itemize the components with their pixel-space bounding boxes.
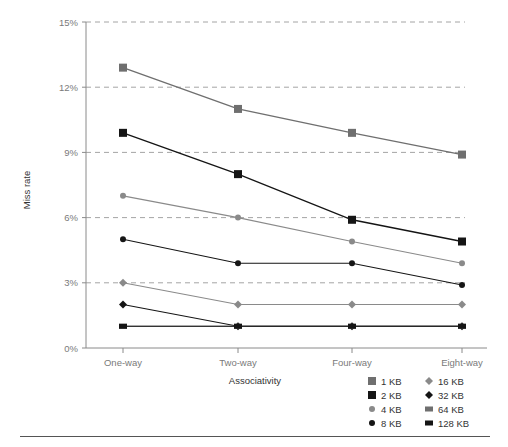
data-point bbox=[119, 279, 127, 287]
data-point bbox=[458, 324, 466, 329]
x-tick-label-eight-way: Eight-way bbox=[441, 357, 483, 368]
x-tick-label-one-way: One-way bbox=[104, 357, 142, 368]
data-point bbox=[458, 301, 466, 309]
series-line bbox=[123, 283, 462, 305]
legend-marker bbox=[368, 391, 376, 399]
data-point bbox=[119, 129, 127, 137]
y-tick-label-6%: 6% bbox=[64, 212, 78, 223]
data-point bbox=[348, 301, 356, 309]
legend-marker bbox=[425, 421, 433, 426]
series-line bbox=[123, 239, 462, 285]
data-point bbox=[349, 239, 355, 245]
series-2-kb bbox=[119, 129, 466, 246]
legend-label: 64 KB bbox=[438, 404, 464, 415]
axes bbox=[82, 22, 487, 353]
x-axis-title: Associativity bbox=[229, 375, 282, 386]
legend-item-16-kb[interactable]: 16 KB bbox=[425, 376, 464, 387]
legend-label: 32 KB bbox=[438, 390, 464, 401]
data-point bbox=[235, 260, 241, 266]
series-line bbox=[123, 68, 462, 155]
y-tick-label-15%: 15% bbox=[59, 17, 79, 28]
y-axis-title: Miss rate bbox=[21, 171, 32, 210]
axis-titles: AssociativityMiss rate bbox=[21, 171, 281, 386]
series-line bbox=[123, 196, 462, 263]
legend-item-64-kb[interactable]: 64 KB bbox=[425, 404, 464, 415]
data-point bbox=[120, 236, 126, 242]
miss-rate-line-chart: 0%3%6%9%12%15% One-wayTwo-wayFour-wayEig… bbox=[0, 0, 508, 447]
y-tick-label-12%: 12% bbox=[59, 82, 79, 93]
x-tick-label-two-way: Two-way bbox=[219, 357, 257, 368]
data-point bbox=[120, 193, 126, 199]
x-axis-tick-labels: One-wayTwo-wayFour-wayEight-way bbox=[104, 357, 483, 368]
data-point bbox=[119, 64, 127, 72]
data-point bbox=[234, 301, 242, 309]
chart-legend: 1 KB2 KB4 KB8 KB16 KB32 KB64 KB128 KB bbox=[368, 376, 469, 429]
series-16-kb bbox=[119, 279, 466, 309]
data-point bbox=[235, 215, 241, 221]
data-point bbox=[459, 282, 465, 288]
data-point bbox=[119, 301, 127, 309]
chart-figure: 0%3%6%9%12%15% One-wayTwo-wayFour-wayEig… bbox=[0, 0, 508, 447]
data-point bbox=[348, 129, 356, 137]
data-point bbox=[234, 324, 242, 329]
y-tick-label-3%: 3% bbox=[64, 277, 78, 288]
y-tick-label-9%: 9% bbox=[64, 147, 78, 158]
x-tick-label-four-way: Four-way bbox=[332, 357, 372, 368]
legend-label: 8 KB bbox=[381, 418, 402, 429]
legend-label: 2 KB bbox=[381, 390, 402, 401]
data-point bbox=[234, 105, 242, 113]
series-layer bbox=[119, 64, 466, 331]
legend-label: 128 KB bbox=[438, 418, 469, 429]
legend-item-1-kb[interactable]: 1 KB bbox=[368, 376, 402, 387]
data-point bbox=[458, 151, 466, 159]
legend-marker bbox=[425, 377, 433, 385]
series-1-kb bbox=[119, 64, 466, 159]
legend-marker bbox=[425, 391, 433, 399]
series-8-kb bbox=[120, 236, 465, 288]
data-point bbox=[234, 170, 242, 178]
data-point bbox=[458, 238, 466, 246]
legend-marker bbox=[369, 406, 375, 412]
data-point bbox=[348, 216, 356, 224]
legend-item-8-kb[interactable]: 8 KB bbox=[369, 418, 402, 429]
legend-marker bbox=[368, 377, 376, 385]
data-point bbox=[349, 260, 355, 266]
y-tick-label-0%: 0% bbox=[64, 343, 78, 354]
series-line bbox=[123, 305, 462, 327]
y-axis-tick-labels: 0%3%6%9%12%15% bbox=[59, 17, 79, 354]
footer-rule bbox=[20, 436, 490, 437]
legend-item-4-kb[interactable]: 4 KB bbox=[369, 404, 402, 415]
legend-label: 1 KB bbox=[381, 376, 402, 387]
legend-label: 16 KB bbox=[438, 376, 464, 387]
data-point bbox=[459, 260, 465, 266]
legend-marker bbox=[369, 420, 375, 426]
series-128-kb bbox=[119, 324, 466, 329]
legend-item-128-kb[interactable]: 128 KB bbox=[425, 418, 469, 429]
data-point bbox=[348, 324, 356, 329]
legend-label: 4 KB bbox=[381, 404, 402, 415]
legend-marker bbox=[425, 407, 433, 412]
legend-item-32-kb[interactable]: 32 KB bbox=[425, 390, 464, 401]
series-4-kb bbox=[120, 193, 465, 266]
data-point bbox=[119, 324, 127, 329]
series-line bbox=[123, 133, 462, 242]
legend-item-2-kb[interactable]: 2 KB bbox=[368, 390, 402, 401]
